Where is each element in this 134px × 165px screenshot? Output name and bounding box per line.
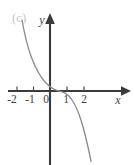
panel-label: (c)	[12, 10, 26, 25]
tick-label-x-two: 2	[81, 93, 87, 105]
figure-container: -2 -1 0 1 2 x y (c)	[0, 0, 134, 165]
origin-label: 0	[43, 93, 49, 105]
tick-label-x-negative-one: -1	[25, 93, 35, 105]
x-axis-label: x	[114, 93, 121, 107]
x-axis-arrow-icon	[121, 86, 131, 96]
coordinate-plot: -2 -1 0 1 2 x y (c)	[0, 0, 134, 165]
tick-label-x-negative-two: -2	[7, 93, 17, 105]
tick-label-x-one: 1	[63, 93, 69, 105]
y-axis-arrow-icon	[45, 13, 55, 24]
y-axis-label: y	[38, 13, 45, 27]
